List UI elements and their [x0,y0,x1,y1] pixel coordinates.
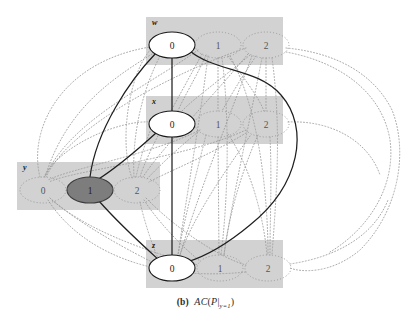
node-w0[interactable]: 0 [149,32,195,58]
node-label-z0: 0 [170,264,175,274]
node-label-x2: 2 [264,120,269,130]
group-label-y: y [22,163,27,172]
node-label-x0: 0 [170,120,175,130]
arc-consistency-diagram: 012012012012 wxyz [0,0,411,319]
node-label-y2: 2 [135,186,140,196]
group-label-x: x [151,97,156,106]
node-label-z1: 1 [218,264,223,274]
node-y1[interactable]: 1 [67,177,113,203]
node-label-x1: 1 [216,120,221,130]
node-z0[interactable]: 0 [149,255,195,281]
figure-caption: (b) AC(P|y=1) [0,296,411,309]
caption-ac: AC [194,296,207,307]
node-label-w2: 2 [264,41,269,51]
node-label-y0: 0 [41,186,46,196]
node-x0[interactable]: 0 [149,111,195,137]
node-label-w0: 0 [170,41,175,51]
node-label-z2: 2 [266,264,271,274]
node-label-w1: 1 [216,41,221,51]
caption-subscript: y=1 [220,302,231,309]
caption-label: (b) [177,297,189,307]
group-label-w: w [152,18,158,27]
node-label-y1: 1 [88,186,93,196]
caption-paren-close: ) [231,296,235,307]
